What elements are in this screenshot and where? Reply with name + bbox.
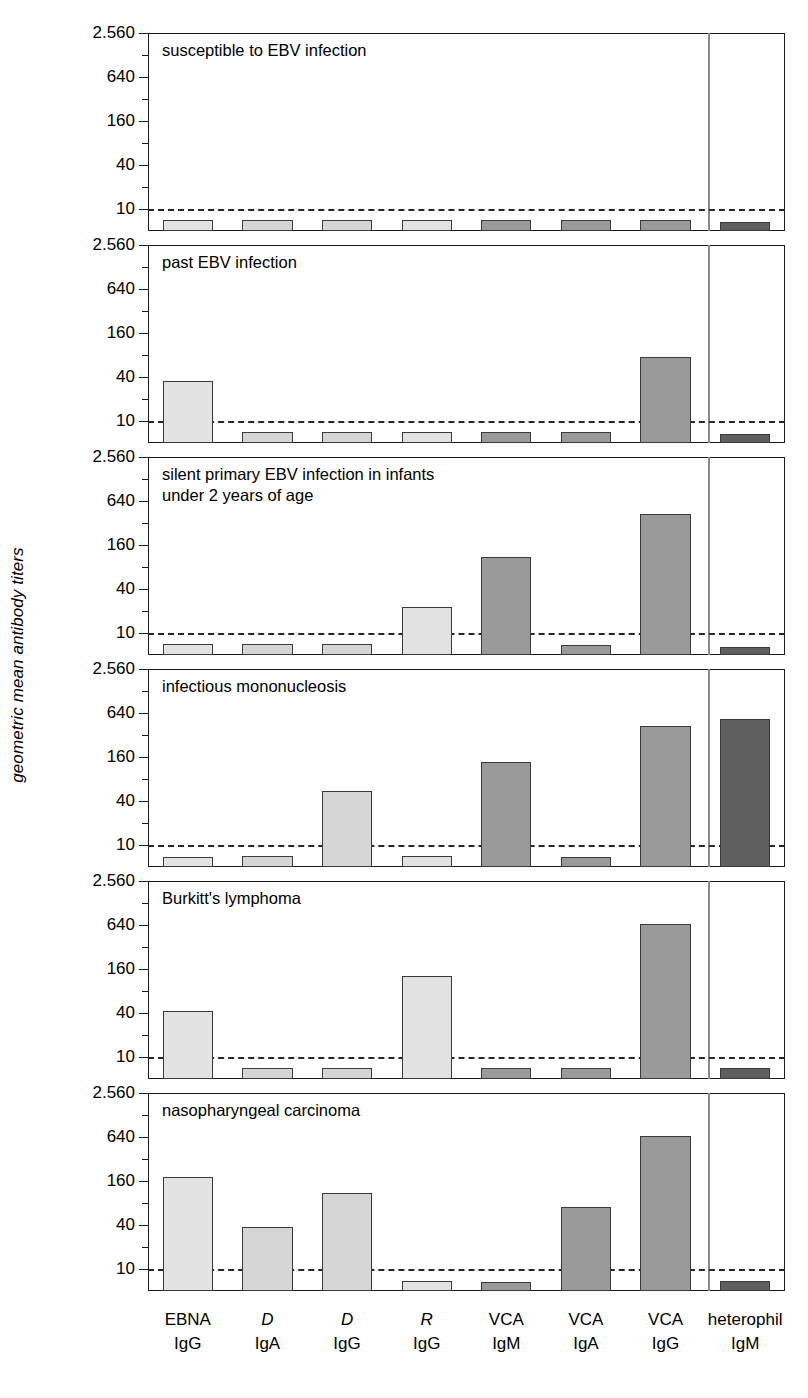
bar	[163, 644, 213, 655]
y-axis-tick-minor	[142, 991, 148, 992]
y-axis-tick-label: 160	[107, 323, 135, 343]
bar	[242, 1227, 292, 1291]
bar	[163, 381, 213, 443]
bar	[720, 1068, 770, 1079]
y-axis-tick-label: 40	[116, 1003, 135, 1023]
y-axis-tick-minor	[142, 779, 148, 780]
y-axis-tick-label: 40	[116, 155, 135, 175]
y-axis-tick-label: 40	[116, 367, 135, 387]
y-axis-tick-major	[139, 1225, 148, 1226]
bar	[720, 1281, 770, 1291]
y-axis-tick-major	[139, 165, 148, 166]
bar	[242, 432, 292, 443]
bar	[322, 1193, 372, 1291]
bar	[481, 762, 531, 867]
bar	[402, 432, 452, 443]
y-axis-tick-major	[139, 969, 148, 970]
bar	[242, 1068, 292, 1079]
cutoff-titer-line	[148, 209, 785, 211]
bar	[481, 1068, 531, 1079]
chart-panel: 2.5606401604010silent primary EBV infect…	[148, 457, 785, 655]
bar	[720, 222, 770, 231]
bar	[322, 644, 372, 655]
bar	[640, 514, 690, 655]
bar	[561, 1207, 611, 1291]
y-axis-tick-major	[139, 801, 148, 802]
y-axis-tick-major	[139, 333, 148, 334]
x-axis-antigen-label: heterophil	[688, 1308, 803, 1332]
y-axis-tick-label: 160	[107, 111, 135, 131]
y-axis-tick-label: 640	[107, 703, 135, 723]
bar	[481, 557, 531, 655]
y-axis-tick-minor	[142, 567, 148, 568]
y-axis-tick-label: 10	[116, 1047, 135, 1067]
chart-panel: 2.5606401604010susceptible to EBV infect…	[148, 33, 785, 231]
y-axis-tick-major	[139, 545, 148, 546]
y-axis-tick-major	[139, 209, 148, 210]
bar	[322, 432, 372, 443]
bar	[640, 924, 690, 1079]
y-axis-tick-major	[139, 669, 148, 670]
y-axis-tick-label: 640	[107, 279, 135, 299]
bar	[561, 220, 611, 231]
bar	[481, 220, 531, 231]
panel-title: nasopharyngeal carcinoma	[162, 1100, 360, 1121]
y-axis-tick-minor	[142, 99, 148, 100]
y-axis-tick-label: 10	[116, 411, 135, 431]
y-axis-tick-label: 40	[116, 579, 135, 599]
y-axis-tick-major	[139, 289, 148, 290]
bar	[402, 220, 452, 231]
y-axis-tick-label: 2.560	[92, 1083, 135, 1103]
bar	[242, 220, 292, 231]
y-axis-tick-label: 40	[116, 791, 135, 811]
bar	[640, 726, 690, 867]
chart-panel: 2.5606401604010infectious mononucleosis	[148, 669, 785, 867]
bar	[402, 856, 452, 867]
y-axis-tick-minor	[142, 55, 148, 56]
bar	[640, 357, 690, 443]
y-axis-tick-minor	[142, 611, 148, 612]
panel-title: Burkitt's lymphoma	[162, 888, 301, 909]
bar	[561, 645, 611, 655]
y-axis-tick-label: 10	[116, 623, 135, 643]
bar	[163, 857, 213, 867]
x-axis-category-label: heterophilIgM	[688, 1308, 803, 1356]
y-axis-tick-minor	[142, 1159, 148, 1160]
bar	[322, 1068, 372, 1079]
y-axis-tick-minor	[142, 1203, 148, 1204]
y-axis-tick-minor	[142, 479, 148, 480]
y-axis-tick-major	[139, 1093, 148, 1094]
bar	[242, 856, 292, 867]
bar	[402, 1281, 452, 1291]
heterophil-group-divider	[708, 33, 710, 231]
y-axis-tick-major	[139, 1181, 148, 1182]
y-axis-tick-major	[139, 633, 148, 634]
panel-title: susceptible to EBV infection	[162, 40, 367, 61]
x-axis-category-labels: EBNAIgGDIgADIgGRIgGVCAIgMVCAIgAVCAIgGhet…	[148, 1308, 785, 1394]
y-axis-tick-major	[139, 245, 148, 246]
bar	[640, 220, 690, 231]
chart-panel: 2.5606401604010past EBV infection	[148, 245, 785, 443]
bar	[481, 432, 531, 443]
y-axis-tick-minor	[142, 947, 148, 948]
figure-panel-stack: geometric mean antibody titers 2.5606401…	[0, 0, 808, 1398]
bar	[402, 607, 452, 655]
heterophil-group-divider	[708, 1093, 710, 1291]
y-axis-tick-major	[139, 881, 148, 882]
y-axis-tick-major	[139, 589, 148, 590]
y-axis-tick-label: 640	[107, 1127, 135, 1147]
y-axis-tick-label: 160	[107, 535, 135, 555]
bar	[561, 1068, 611, 1079]
panel-title: past EBV infection	[162, 252, 297, 273]
y-axis-tick-major	[139, 33, 148, 34]
y-axis-tick-major	[139, 1269, 148, 1270]
y-axis-tick-major	[139, 457, 148, 458]
y-axis-tick-minor	[142, 523, 148, 524]
y-axis-tick-major	[139, 1137, 148, 1138]
bar	[640, 1136, 690, 1291]
y-axis-tick-label: 2.560	[92, 871, 135, 891]
y-axis-tick-label: 10	[116, 1259, 135, 1279]
y-axis-tick-major	[139, 77, 148, 78]
y-axis-tick-major	[139, 421, 148, 422]
bar	[720, 434, 770, 443]
